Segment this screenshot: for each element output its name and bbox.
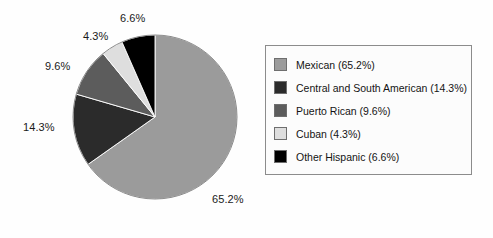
slice-percent-label: 14.3% xyxy=(23,121,55,133)
legend-swatch xyxy=(274,58,287,71)
pie-slices-group xyxy=(73,35,237,199)
slice-percent-label: 9.6% xyxy=(45,60,70,72)
legend-swatch xyxy=(274,150,287,163)
legend-item: Puerto Rican (9.6%) xyxy=(266,99,471,122)
slice-percent-label: 4.3% xyxy=(83,30,108,42)
slice-percent-label: 6.6% xyxy=(120,12,145,24)
legend-item: Other Hispanic (6.6%) xyxy=(266,145,471,168)
legend-item-label: Other Hispanic (6.6%) xyxy=(296,151,399,163)
legend-swatch xyxy=(274,81,287,94)
legend-item-label: Cuban (4.3%) xyxy=(296,128,361,140)
legend-item-label: Central and South American (14.3%) xyxy=(296,82,467,94)
legend-list: Mexican (65.2%)Central and South America… xyxy=(266,46,471,174)
legend-swatch xyxy=(274,127,287,140)
legend-item: Cuban (4.3%) xyxy=(266,122,471,145)
legend-item: Mexican (65.2%) xyxy=(266,53,471,76)
legend-swatch xyxy=(274,104,287,117)
legend-item-label: Mexican (65.2%) xyxy=(296,59,375,71)
pie-chart-figure: 65.2%14.3%9.6%4.3%6.6% Mexican (65.2%)Ce… xyxy=(0,0,493,238)
pie-plot-area: 65.2%14.3%9.6%4.3%6.6% xyxy=(0,0,260,238)
legend-item: Central and South American (14.3%) xyxy=(266,76,471,99)
chart-legend: Mexican (65.2%)Central and South America… xyxy=(265,45,472,175)
legend-item-label: Puerto Rican (9.6%) xyxy=(296,105,391,117)
slice-percent-label: 65.2% xyxy=(212,193,244,205)
